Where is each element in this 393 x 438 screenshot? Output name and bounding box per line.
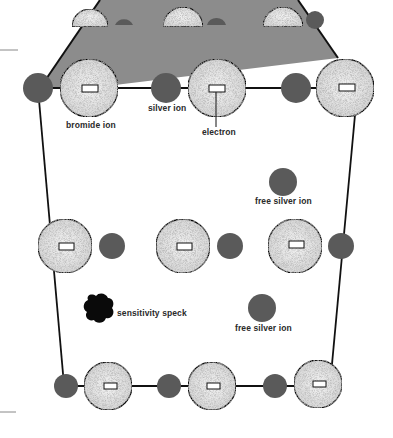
free-silver-ion bbox=[248, 294, 276, 322]
front-top-row bbox=[23, 59, 374, 127]
silver-ion bbox=[157, 374, 181, 398]
silver-ion bbox=[217, 233, 243, 259]
bottom-row bbox=[54, 360, 342, 410]
silver-ion bbox=[281, 73, 311, 103]
label-bromide-ion: bromide ion bbox=[66, 120, 116, 130]
silver-ion bbox=[99, 233, 125, 259]
left-bracket bbox=[0, 50, 18, 412]
silver-ion bbox=[151, 73, 181, 103]
label-sensitivity-speck: sensitivity speck bbox=[117, 308, 187, 318]
free-silver-ion bbox=[269, 168, 297, 196]
middle-row bbox=[38, 219, 354, 273]
label-silver-ion: silver ion bbox=[148, 103, 186, 113]
label-electron: electron bbox=[202, 127, 236, 137]
silver-ion bbox=[263, 374, 287, 398]
silver-ion bbox=[23, 73, 53, 103]
silver-ion bbox=[328, 233, 354, 259]
crystal-lattice-diagram bbox=[0, 0, 393, 438]
electron-marker bbox=[209, 85, 225, 92]
label-free-silver-ion-lower: free silver ion bbox=[235, 323, 292, 333]
label-free-silver-ion-upper: free silver ion bbox=[255, 196, 312, 206]
sensitivity-speck bbox=[84, 294, 114, 323]
silver-ion bbox=[54, 374, 78, 398]
